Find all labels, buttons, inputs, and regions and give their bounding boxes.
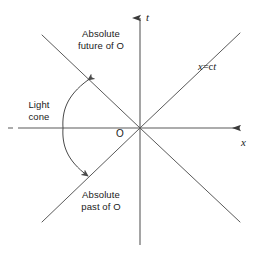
space-axis-label: x <box>241 136 246 148</box>
ray-northeast <box>140 33 240 128</box>
time-axis-label: t <box>146 11 149 23</box>
origin-label: O <box>116 128 124 139</box>
light-cone-line2: cone <box>18 111 60 123</box>
ray-southeast <box>140 128 240 222</box>
light-cone-label: Light cone <box>18 99 60 122</box>
axis-gap-mask <box>13 126 18 130</box>
absolute-future-line1: Absolute <box>63 28 139 40</box>
light-cone-line1: Light <box>18 99 60 111</box>
absolute-future-line2: future of O <box>63 40 139 52</box>
absolute-past-line1: Absolute <box>63 189 139 201</box>
light-cone-diagram: Absolute future of O Absolute past of O … <box>0 0 260 255</box>
absolute-future-label: Absolute future of O <box>63 28 139 51</box>
absolute-past-line2: past of O <box>63 201 139 213</box>
equation-time: t <box>213 61 216 72</box>
worldline-equation-label: x=ct <box>198 61 216 72</box>
absolute-past-label: Absolute past of O <box>63 189 139 212</box>
